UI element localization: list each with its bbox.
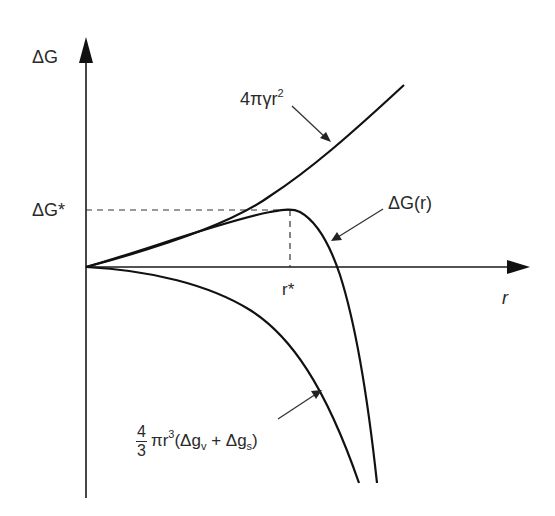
total-free-energy-label: ΔG(r) <box>388 194 432 212</box>
surface-label-pointer <box>292 106 325 137</box>
surface-energy-label-text: 4πγr <box>240 89 277 109</box>
x-axis-arrow-icon <box>507 260 530 274</box>
critical-radius-label: r* <box>282 281 294 298</box>
x-axis-label-text: r <box>502 288 508 308</box>
volume-energy-label-close: ) <box>252 431 258 450</box>
y-axis-label: ΔG <box>32 48 58 66</box>
x-axis-label: r <box>502 289 508 307</box>
volume-label-pointer <box>278 394 316 419</box>
volume-energy-label-open: (Δg <box>174 431 200 450</box>
total-free-energy-label-text: ΔG(r) <box>388 193 432 213</box>
y-axis-label-text: ΔG <box>32 47 58 67</box>
critical-energy-label-text: ΔG* <box>32 200 65 220</box>
y-axis-arrow-icon <box>79 37 93 63</box>
critical-energy-label: ΔG* <box>32 201 65 219</box>
fraction-numerator: 4 <box>136 424 147 442</box>
volume-energy-label-exponent: 3 <box>168 428 174 440</box>
volume-energy-fraction: 4 3 <box>136 424 147 459</box>
surface-energy-curve <box>86 85 404 267</box>
volume-energy-label-sub-v: v <box>201 440 207 452</box>
total-label-pointer-head-icon <box>331 232 342 241</box>
volume-energy-label-sub-s: s <box>247 440 253 452</box>
surface-energy-label: 4πγr2 <box>240 90 284 108</box>
fraction-denominator: 3 <box>136 442 147 459</box>
volume-energy-label-mid: + Δg <box>206 431 246 450</box>
volume-energy-label: 4 3 πr3(Δgv + Δgs) <box>136 424 258 459</box>
diagram-canvas <box>0 0 555 516</box>
surface-energy-label-exponent: 2 <box>277 87 283 99</box>
total-label-pointer <box>338 209 383 237</box>
critical-radius-label-text: r* <box>282 280 294 299</box>
volume-energy-label-pre: πr <box>151 431 168 450</box>
